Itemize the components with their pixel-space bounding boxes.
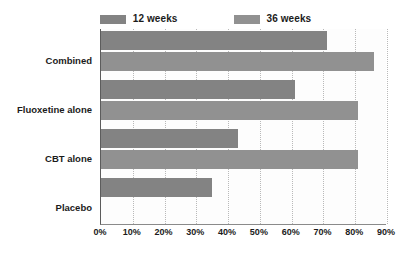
bar-chart: 12 weeks 36 weeks CombinedFluoxetine alo… — [0, 0, 411, 258]
x-tick-50pct: 50% — [250, 228, 268, 237]
gridline — [387, 29, 388, 224]
legend-label-12-weeks: 12 weeks — [133, 14, 178, 24]
y-axis-label-cbt-alone: CBT alone — [45, 154, 92, 164]
y-axis-label-placebo: Placebo — [56, 203, 92, 213]
legend-swatch-36-weeks — [234, 15, 260, 24]
x-tick-20pct: 20% — [155, 228, 173, 237]
y-axis-label-fluoxetine-alone: Fluoxetine alone — [17, 105, 92, 115]
bar-cbt-alone-36-weeks — [101, 150, 358, 169]
y-axis-label-combined: Combined — [46, 56, 92, 66]
x-tick-30pct: 30% — [186, 228, 204, 237]
chart-legend: 12 weeks 36 weeks — [0, 9, 411, 29]
x-tick-70pct: 70% — [313, 228, 331, 237]
x-tick-10pct: 10% — [123, 228, 141, 237]
legend-item-12-weeks: 12 weeks — [100, 14, 178, 24]
x-tick-0pct: 0% — [93, 228, 106, 237]
legend-swatch-12-weeks — [100, 15, 126, 24]
bars-layer — [101, 29, 386, 224]
legend-label-36-weeks: 36 weeks — [267, 14, 312, 24]
bar-cbt-alone-12-weeks — [101, 129, 238, 148]
x-tick-80pct: 80% — [345, 228, 363, 237]
plot-area — [100, 29, 386, 225]
x-axis-tick-labels: 0%10%20%30%40%50%60%70%80%90% — [100, 228, 386, 244]
bar-fluoxetine-alone-36-weeks — [101, 101, 358, 120]
bar-combined-12-weeks — [101, 31, 327, 50]
legend-item-36-weeks: 36 weeks — [234, 14, 312, 24]
x-tick-90pct: 90% — [377, 228, 395, 237]
bar-fluoxetine-alone-12-weeks — [101, 80, 295, 99]
x-tick-40pct: 40% — [218, 228, 236, 237]
x-tick-60pct: 60% — [282, 228, 300, 237]
y-axis-category-labels: CombinedFluoxetine aloneCBT alonePlacebo — [0, 29, 96, 225]
bar-combined-36-weeks — [101, 52, 374, 71]
bar-placebo-12-weeks — [101, 178, 212, 197]
